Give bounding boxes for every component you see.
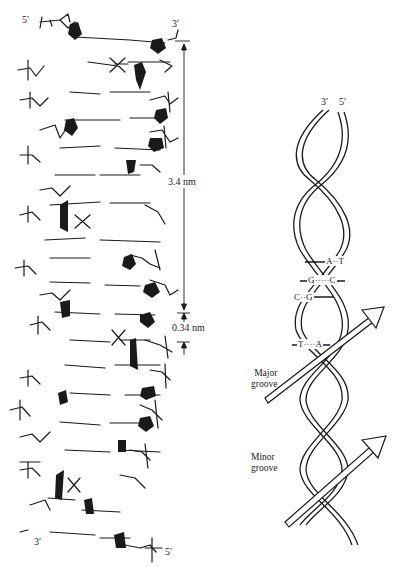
strand-end-label-bottom-right: 5′ — [165, 546, 172, 557]
minor-groove-label: Minor groove — [251, 452, 277, 474]
base-pair-rise-label: 0.34 nm — [172, 322, 205, 333]
strand-end-label-bottom-left: 3′ — [34, 536, 41, 547]
strand-end-label-top-left: 5′ — [22, 14, 29, 25]
helix-pitch-label: 3.4 nm — [168, 175, 196, 188]
major-groove-label: Major groove — [251, 368, 277, 390]
base-pair-ta: T····A — [297, 339, 323, 349]
base-pair-gc: G·····C — [307, 275, 337, 285]
strand-end-label-3prime: 3′ — [321, 96, 328, 107]
base-pair-cg: C··G — [293, 292, 314, 302]
dna-stick-model — [0, 0, 402, 567]
strand-end-label-top-right: 3′ — [172, 18, 179, 29]
dna-ribbon-model — [292, 110, 358, 545]
base-pair-at: A··T — [325, 256, 345, 266]
strand-end-label-5prime: 5′ — [339, 96, 346, 107]
